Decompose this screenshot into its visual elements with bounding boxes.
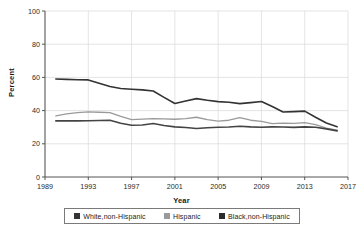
gridlines: [45, 11, 348, 177]
legend-swatch-icon: [164, 213, 170, 219]
chart-legend: White,non-Hispanic Hispanic Black,non-Hi…: [64, 208, 300, 224]
data-series-group: [56, 79, 337, 131]
svg-text:2017: 2017: [340, 182, 356, 191]
svg-text:60: 60: [32, 73, 40, 82]
axis-lines: [45, 11, 348, 177]
svg-text:2005: 2005: [210, 182, 226, 191]
svg-text:1989: 1989: [37, 182, 53, 191]
legend-swatch-icon: [74, 213, 80, 219]
legend-label: Hispanic: [173, 213, 201, 220]
axis-ticks: [42, 11, 348, 180]
svg-text:2001: 2001: [167, 182, 183, 191]
svg-text:2013: 2013: [297, 182, 313, 191]
legend-label: White,non-Hispanic: [83, 213, 146, 220]
svg-text:80: 80: [32, 40, 40, 49]
legend-swatch-icon: [219, 213, 225, 219]
legend-item-white-non-hispanic[interactable]: White,non-Hispanic: [72, 213, 148, 220]
legend-item-hispanic[interactable]: Hispanic: [162, 213, 203, 220]
legend-item-black-non-hispanic[interactable]: Black,non-Hispanic: [217, 213, 292, 220]
legend-label: Black,non-Hispanic: [228, 213, 290, 220]
svg-text:40: 40: [32, 106, 40, 115]
x-axis-label: Year: [0, 196, 363, 205]
svg-text:1993: 1993: [80, 182, 96, 191]
svg-text:100: 100: [28, 7, 40, 16]
svg-text:0: 0: [36, 173, 40, 182]
svg-text:2009: 2009: [253, 182, 269, 191]
line-chart: 0204060801001989199319972001200520092013…: [0, 0, 363, 233]
svg-text:20: 20: [32, 139, 40, 148]
svg-text:1997: 1997: [124, 182, 140, 191]
y-axis-label: Percent: [7, 53, 16, 113]
